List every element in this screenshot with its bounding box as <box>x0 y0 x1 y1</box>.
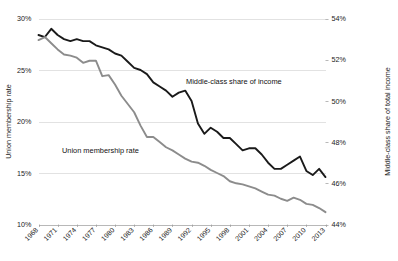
right-tick-label: 44% <box>332 220 347 229</box>
x-tick-label: 1974 <box>62 226 78 242</box>
right-axis-title: Middle-class share of total income <box>383 67 392 176</box>
x-tick-label: 1986 <box>138 226 154 242</box>
x-axis-tick-labels: 1968197119741977198019831986198919921995… <box>23 225 326 243</box>
x-tick-label: 2001 <box>234 226 250 242</box>
x-tick-label: 1998 <box>215 226 231 242</box>
series-annotation-middle-class: Middle-class share of income <box>186 77 282 86</box>
series-line <box>39 37 326 212</box>
right-tick-label: 50% <box>332 97 347 106</box>
left-tick-label: 30% <box>17 14 32 23</box>
right-axis-tick-labels: 54%52%50%48%46%44% <box>326 14 347 229</box>
series-annotation-union: Union membership rate <box>62 146 139 155</box>
x-tick-label: 1992 <box>176 226 192 242</box>
right-tick-label: 54% <box>332 14 347 23</box>
x-tick-label: 1989 <box>157 226 173 242</box>
series-lines-group <box>39 29 326 212</box>
x-tick-label: 1980 <box>100 226 116 242</box>
left-tick-label: 10% <box>17 220 32 229</box>
chart-container: 30%25%20%15%10% 54%52%50%48%46%44% 19681… <box>0 0 398 261</box>
right-tick-label: 52% <box>332 55 347 64</box>
left-tick-label: 25% <box>17 66 32 75</box>
line-chart: 30%25%20%15%10% 54%52%50%48%46%44% 19681… <box>0 0 398 261</box>
left-tick-label: 20% <box>17 117 32 126</box>
gridlines-group <box>39 20 326 226</box>
right-tick-label: 46% <box>332 179 347 188</box>
x-tick-label: 1983 <box>119 226 135 242</box>
left-tick-label: 15% <box>17 169 32 178</box>
x-tick-label: 1995 <box>195 226 211 242</box>
right-tick-label: 48% <box>332 138 347 147</box>
x-tick-label: 2004 <box>253 226 269 242</box>
x-tick-label: 2013 <box>310 226 326 242</box>
x-tick-label: 2007 <box>272 226 288 242</box>
left-axis-tick-labels: 30%25%20%15%10% <box>17 14 32 229</box>
x-tick-label: 1971 <box>42 226 58 242</box>
x-tick-label: 2010 <box>291 226 307 242</box>
left-axis-title: Union membership rate <box>4 84 13 159</box>
x-tick-label: 1977 <box>81 226 97 242</box>
